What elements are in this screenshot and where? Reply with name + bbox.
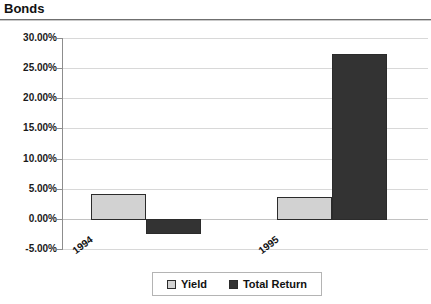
x-axis-category-label-1994: 1994 <box>70 234 94 256</box>
gridline <box>63 38 428 39</box>
y-axis-tick <box>57 68 62 69</box>
y-axis-tick-label: 15.00% <box>3 123 57 133</box>
y-axis-label-group: 30.00%25.00%20.00%15.00%10.00%5.00%0.00%… <box>0 0 57 304</box>
y-axis-tick-label: 20.00% <box>3 93 57 103</box>
y-axis-tick-label: 10.00% <box>3 154 57 164</box>
y-axis-tick <box>57 128 62 129</box>
gridline <box>63 249 428 250</box>
y-axis-tick <box>57 159 62 160</box>
legend-swatch-icon <box>167 280 176 289</box>
bar-1994-total-return[interactable] <box>146 219 201 234</box>
y-axis-tick <box>57 249 62 250</box>
legend-item-yield[interactable]: Yield <box>167 278 207 290</box>
y-axis-tick-label: 30.00% <box>3 33 57 43</box>
x-axis-category-label-1995: 1995 <box>256 234 280 256</box>
bar-1994-yield[interactable] <box>91 194 146 220</box>
legend-label: Total Return <box>243 278 307 290</box>
chart-legend: YieldTotal Return <box>152 272 322 296</box>
bar-1995-total-return[interactable] <box>332 54 387 220</box>
legend-swatch-icon <box>229 280 238 289</box>
y-axis-tick <box>57 189 62 190</box>
y-axis-tick-label: 5.00% <box>3 184 57 194</box>
plot-area: 19941995 <box>63 38 428 249</box>
y-axis-tick-label: -5.00% <box>3 244 57 254</box>
legend-item-total-return[interactable]: Total Return <box>229 278 307 290</box>
legend-label: Yield <box>181 278 207 290</box>
y-axis-tick <box>57 98 62 99</box>
y-axis-tick-label: 25.00% <box>3 63 57 73</box>
y-axis-tick-label: 0.00% <box>3 214 57 224</box>
bar-1995-yield[interactable] <box>277 197 332 220</box>
y-axis-tick <box>57 38 62 39</box>
title-divider <box>0 19 431 21</box>
y-axis-tick <box>57 219 62 220</box>
